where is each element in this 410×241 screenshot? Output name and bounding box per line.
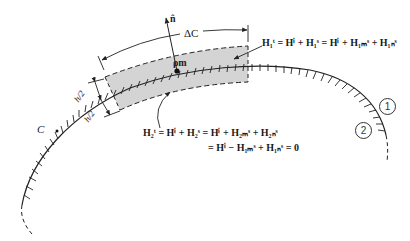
h-dim-upper <box>95 82 101 100</box>
arc-length-label: ΔC <box>184 28 198 39</box>
contour-point-c <box>56 130 59 133</box>
region-1-marker: 1 <box>379 98 396 115</box>
h2-leader <box>158 92 170 128</box>
delta-c-arc-right <box>203 30 247 31</box>
contour-label: C <box>37 124 44 135</box>
h2-equation-line1: H₂ᵗ = Hⁱ + H₂ˢ = Hⁱ + H₂ₘˢ + H₂ₙˢ <box>143 128 278 138</box>
region-2-marker: 2 <box>355 122 372 139</box>
h-dim-tick-bottom <box>104 111 120 117</box>
normal-label: n̂ <box>170 14 176 24</box>
h1-equation: H₁ᵗ = Hⁱ + H₁ˢ = Hⁱ + H₁ₘˢ + H₁ₙˢ <box>262 38 397 48</box>
delta-c-arc-left <box>102 34 180 60</box>
point-rho-m <box>174 68 179 73</box>
h-dim-tick-top <box>88 79 104 83</box>
delta-c-tick-left <box>98 56 104 70</box>
h-dim-lower <box>101 100 110 115</box>
point-label: ρm <box>173 58 187 68</box>
contour-dashed-left <box>21 205 32 234</box>
contour-dashed-right <box>386 135 388 162</box>
h2-equation-line2: = Hⁱ − H₁ₘˢ + H₁ₙˢ = 0 <box>208 143 299 153</box>
